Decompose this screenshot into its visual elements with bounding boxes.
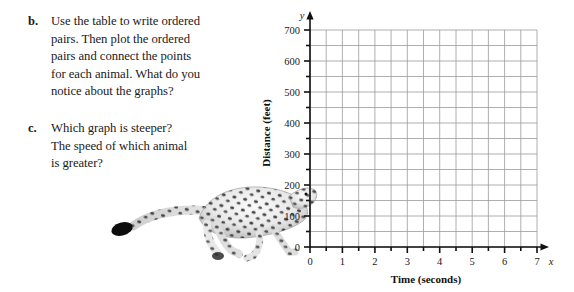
question-c-line-3: is greater? [51,155,187,173]
x-tick-label-6: 6 [502,256,507,267]
question-text-c: Which graph is steeper? The speed of whi… [51,120,187,173]
question-b-line-1: Use the table to write ordered [51,13,200,31]
y-axis-ticks [304,30,310,247]
y-tick-label-200: 200 [284,180,300,191]
y-axis-tick-labels: 0 100 200 300 400 500 600 700 [284,25,300,253]
x-tick-label-4: 4 [437,256,443,267]
y-tick-label-700: 700 [284,25,300,36]
y-axis-title: Distance (feet) [260,99,273,167]
x-axis-title: Time (seconds) [391,273,462,286]
question-item-c: c. Which graph is steeper? The speed of … [28,120,253,173]
y-tick-label-500: 500 [284,87,300,98]
x-axis-ticks [310,247,537,253]
question-panel: b. Use the table to write ordered pairs.… [0,0,258,292]
x-tick-label-5: 5 [470,256,475,267]
question-b-line-4: for each animal. What do you [51,66,200,84]
x-axis-arrowhead [541,243,550,250]
x-tick-label-2: 2 [372,256,377,267]
question-item-b: b. Use the table to write ordered pairs.… [28,13,253,101]
question-b-line-5: notice about the graphs? [51,83,200,101]
x-axis-tick-labels: 0 1 2 3 4 5 6 7 [307,256,539,267]
question-marker-c: c. [28,120,51,138]
question-b-line-2: pairs. Then plot the ordered [51,31,200,49]
question-c-line-2: The speed of which animal [51,138,187,156]
coordinate-grid-svg: 0 100 200 300 400 500 600 700 0 1 2 3 4 … [258,0,574,292]
question-text-b: Use the table to write ordered pairs. Th… [51,13,200,101]
y-axis-variable-label: y [299,10,305,21]
question-b-line-3: pairs and connect the points [51,48,200,66]
question-marker-b: b. [28,13,51,31]
y-tick-label-400: 400 [284,118,300,129]
y-tick-label-300: 300 [284,149,300,160]
y-axis-arrowhead [306,11,313,20]
x-tick-label-3: 3 [405,256,410,267]
y-tick-label-0: 0 [295,242,300,253]
x-tick-label-7: 7 [534,256,539,267]
x-axis-variable-label: x [548,256,554,267]
y-tick-label-600: 600 [284,56,300,67]
y-tick-label-100: 100 [284,211,300,222]
x-tick-label-0: 0 [307,256,312,267]
coordinate-plane: 0 100 200 300 400 500 600 700 0 1 2 3 4 … [258,0,574,292]
question-c-line-1: Which graph is steeper? [51,120,187,138]
x-tick-label-1: 1 [340,256,345,267]
